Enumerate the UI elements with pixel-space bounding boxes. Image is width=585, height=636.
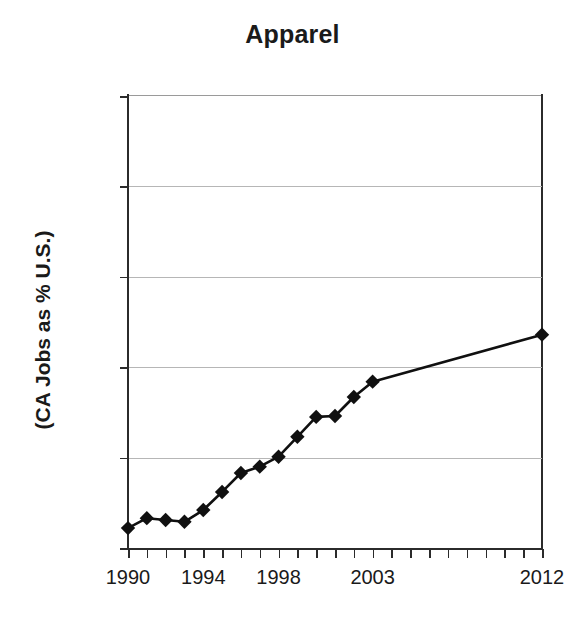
x-tick-mark bbox=[316, 549, 318, 558]
x-tick-mark bbox=[184, 549, 186, 558]
x-tick-mark bbox=[542, 549, 544, 558]
x-tick-mark bbox=[297, 549, 299, 558]
x-tick-mark bbox=[410, 549, 412, 558]
x-tick-mark bbox=[354, 549, 356, 558]
plot-area bbox=[128, 96, 542, 548]
y-tick-mark bbox=[120, 367, 129, 369]
x-tick-label: 2012 bbox=[520, 566, 565, 589]
x-tick-mark bbox=[166, 549, 168, 558]
x-tick-mark bbox=[279, 549, 281, 558]
x-tick-mark bbox=[523, 549, 525, 558]
x-tick-mark bbox=[448, 549, 450, 558]
x-tick-mark bbox=[391, 549, 393, 558]
grid-line bbox=[128, 367, 542, 368]
y-tick-mark bbox=[120, 277, 129, 279]
x-tick-mark bbox=[335, 549, 337, 558]
x-tick-mark bbox=[486, 549, 488, 558]
grid-line bbox=[128, 277, 542, 278]
x-tick-mark bbox=[373, 549, 375, 558]
x-tick-mark bbox=[222, 549, 224, 558]
x-tick-mark bbox=[241, 549, 243, 558]
chart-container: Apparel (CA Jobs as % U.S.) 10%20%30%40%… bbox=[0, 0, 585, 636]
x-tick-mark bbox=[504, 549, 506, 558]
grid-line bbox=[128, 186, 542, 187]
x-tick-label: 2003 bbox=[350, 566, 395, 589]
x-tick-mark bbox=[467, 549, 469, 558]
y-tick-mark bbox=[120, 186, 129, 188]
x-tick-mark bbox=[260, 549, 262, 558]
x-tick-mark bbox=[429, 549, 431, 558]
y-axis-title: (CA Jobs as % U.S.) bbox=[31, 165, 55, 495]
x-tick-mark bbox=[203, 549, 205, 558]
y-tick-mark bbox=[120, 96, 129, 98]
x-tick-mark bbox=[147, 549, 149, 558]
x-tick-label: 1990 bbox=[106, 566, 151, 589]
x-tick-label: 1998 bbox=[256, 566, 301, 589]
x-tick-mark bbox=[128, 549, 130, 558]
chart-title: Apparel bbox=[0, 20, 585, 49]
y-tick-mark bbox=[120, 458, 129, 460]
x-tick-label: 1994 bbox=[181, 566, 226, 589]
grid-line bbox=[128, 458, 542, 459]
